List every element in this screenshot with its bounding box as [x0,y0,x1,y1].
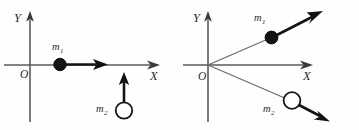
x-axis-label-left: X [149,69,159,83]
svg-text:m: m [52,41,60,52]
origin-label-right: O [198,70,207,82]
mass-m2-left [116,102,132,118]
velocity-vector-m2-left [119,72,129,102]
mass-label-m1-right: m 1 [254,12,266,26]
x-axis-right [183,60,313,69]
mass-label-m2-left: m 2 [96,103,108,117]
svg-text:m: m [96,103,104,114]
svg-text:2: 2 [104,109,108,117]
mass-m1-right [265,31,278,44]
y-axis-left [26,11,34,122]
y-axis-label-left: Y [14,11,23,25]
mass-label-m1-left: m 1 [52,41,64,55]
trajectory-ray-m2-right [208,65,287,99]
diagram-panel-after: O X Y m 1 [175,0,359,130]
origin-label-left: O [20,68,29,80]
svg-text:m: m [254,12,262,23]
mass-m1-left [54,58,66,70]
physics-vector-figure: O X Y m 1 [0,0,359,130]
diagram-panel-before: O X Y m 1 [0,0,175,130]
x-axis-label-right: X [302,69,312,83]
mass-m2-right [284,92,301,109]
y-axis-label-right: Y [193,11,202,25]
svg-text:1: 1 [262,18,266,26]
velocity-vector-m1-left [62,59,108,70]
svg-text:1: 1 [60,47,64,55]
velocity-vector-m1-right [274,11,323,37]
svg-text:2: 2 [271,109,275,117]
velocity-vector-m2-right [299,105,330,122]
trajectory-ray-m1-right [208,39,268,65]
mass-label-m2-right: m 2 [263,103,275,117]
svg-text:m: m [263,103,271,114]
